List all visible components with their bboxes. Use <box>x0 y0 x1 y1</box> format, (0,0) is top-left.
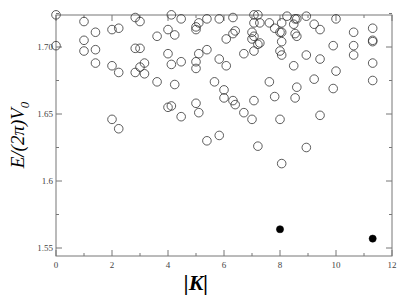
open-data-point <box>302 12 311 21</box>
open-data-point <box>153 78 162 87</box>
open-data-point <box>203 137 212 146</box>
filled-data-point <box>276 226 283 233</box>
open-data-point <box>114 124 123 133</box>
open-data-point <box>108 115 117 124</box>
open-data-point <box>368 24 377 33</box>
open-data-point <box>177 15 186 24</box>
open-data-point <box>276 115 285 124</box>
open-data-point <box>289 20 298 29</box>
open-data-point <box>250 47 259 56</box>
open-data-point <box>91 28 100 37</box>
open-data-point <box>265 19 274 28</box>
x-tick-label: 8 <box>278 260 283 270</box>
open-data-point <box>177 57 186 66</box>
open-data-point <box>310 20 319 29</box>
open-data-point <box>349 28 358 37</box>
open-data-point <box>195 49 204 58</box>
open-data-point <box>316 55 325 64</box>
x-tick-label: 6 <box>222 260 227 270</box>
open-data-point <box>332 67 341 76</box>
y-axis-title-subscript: 0 <box>17 101 32 108</box>
open-data-point <box>270 92 279 101</box>
open-data-point <box>80 17 89 26</box>
open-data-point <box>222 61 231 70</box>
open-data-point <box>316 111 325 120</box>
open-data-point <box>210 78 219 87</box>
open-data-point <box>140 70 149 79</box>
data-points <box>52 11 377 243</box>
open-data-point <box>131 68 140 77</box>
x-tick-label: 2 <box>110 260 115 270</box>
plot-area: 0246810121.551.61.651.70 <box>37 14 396 271</box>
open-data-point <box>80 47 89 56</box>
open-data-point <box>254 142 263 151</box>
open-data-point <box>167 60 176 69</box>
filled-data-point <box>369 235 376 242</box>
open-data-point <box>91 45 100 54</box>
x-axis-title: |K| <box>184 270 208 295</box>
open-data-point <box>248 35 257 44</box>
open-data-point <box>215 15 224 24</box>
open-data-point <box>283 12 292 21</box>
svg-text:E/(2π)V0: E/(2π)V0 <box>7 101 32 169</box>
open-data-point <box>131 44 140 53</box>
open-data-point <box>248 115 257 124</box>
y-tick-label: 1.65 <box>37 109 53 119</box>
open-data-point <box>291 94 300 103</box>
open-data-point <box>277 37 286 46</box>
plot-frame <box>56 15 392 256</box>
y-tick-label: 1.55 <box>37 243 53 253</box>
scatter-chart: 0246810121.551.61.651.70 |K| E/(2π)V0 <box>0 0 404 302</box>
open-data-point <box>215 131 224 140</box>
open-data-point <box>229 29 238 38</box>
open-data-point <box>277 159 286 168</box>
open-data-point <box>368 59 377 68</box>
x-tick-label: 0 <box>54 260 59 270</box>
open-data-point <box>349 51 358 60</box>
open-data-point <box>231 27 240 36</box>
open-data-point <box>164 49 173 58</box>
open-data-point <box>167 102 176 111</box>
open-data-point <box>293 32 302 41</box>
open-data-point <box>170 80 179 89</box>
open-data-point <box>316 25 325 34</box>
y-tick-label: 1.70 <box>37 42 53 52</box>
open-data-point <box>368 76 377 85</box>
open-data-point <box>195 108 204 117</box>
open-data-point <box>240 49 249 58</box>
open-data-point <box>289 61 298 70</box>
open-data-point <box>291 29 300 38</box>
open-data-point <box>192 64 201 73</box>
y-axis-title: E/(2π)V0 <box>7 101 32 169</box>
open-data-point <box>329 84 338 93</box>
open-data-point <box>256 39 265 48</box>
open-data-point <box>108 61 117 70</box>
open-data-point <box>170 31 179 40</box>
open-data-point <box>265 78 274 87</box>
open-data-point <box>192 99 201 108</box>
open-data-point <box>220 86 229 95</box>
open-data-point <box>153 32 162 41</box>
open-data-point <box>203 15 212 24</box>
y-tick-label: 1.6 <box>42 176 54 186</box>
open-data-point <box>203 45 212 54</box>
x-tick-label: 4 <box>166 260 171 270</box>
open-data-point <box>302 143 311 152</box>
x-tick-label: 12 <box>388 260 397 270</box>
open-data-point <box>91 59 100 68</box>
y-axis-title-main: E/(2π)V <box>7 106 29 170</box>
open-data-point <box>349 41 358 50</box>
open-data-point <box>220 94 229 103</box>
open-data-point <box>310 75 319 84</box>
open-data-point <box>293 83 302 92</box>
open-data-point <box>192 57 201 66</box>
x-tick-label: 10 <box>332 260 342 270</box>
open-data-point <box>177 112 186 121</box>
open-data-point <box>114 68 123 77</box>
open-data-point <box>215 55 224 64</box>
open-data-point <box>136 44 145 53</box>
open-data-point <box>256 19 265 28</box>
open-data-point <box>302 51 311 60</box>
open-data-point <box>329 41 338 50</box>
open-data-point <box>240 108 249 117</box>
